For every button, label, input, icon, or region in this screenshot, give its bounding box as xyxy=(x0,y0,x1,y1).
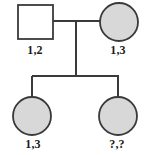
genotype-label-child1: 1,3 xyxy=(0,138,66,151)
genotype-label-child2: ?,? xyxy=(86,138,148,151)
individual-father-square[interactable] xyxy=(18,5,53,39)
genotype-label-mother: 1,3 xyxy=(88,44,148,57)
individual-child2-circle[interactable] xyxy=(99,97,137,135)
pedigree-diagram: 1,2 1,3 1,3 ?,? xyxy=(0,0,149,155)
genotype-label-father: 1,2 xyxy=(0,44,70,57)
pedigree-canvas xyxy=(0,0,149,155)
individual-mother-circle[interactable] xyxy=(100,3,138,41)
individual-child1-circle[interactable] xyxy=(13,97,51,135)
